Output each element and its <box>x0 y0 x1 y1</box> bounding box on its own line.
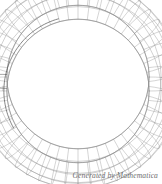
generated-by-caption: Generated by Mathematica <box>73 171 158 181</box>
torus-body-fill <box>0 0 162 184</box>
torus-fill-layer <box>0 0 162 184</box>
torus-wireframe-svg <box>0 0 162 184</box>
figure-canvas: Generated by Mathematica <box>0 0 162 184</box>
torus-plot-area <box>0 0 162 184</box>
